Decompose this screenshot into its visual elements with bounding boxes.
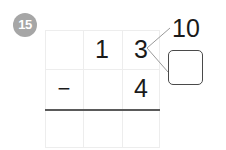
cell-subtrahend-ones[interactable]: 4 — [122, 69, 160, 108]
cell-operator-minus: − — [45, 69, 83, 108]
decomposition-ten-label: 10 — [172, 14, 200, 42]
cell-subtrahend-tens[interactable] — [83, 69, 121, 108]
worksheet-problem: 15 1 3 − 4 10 — [0, 0, 226, 150]
cell-minuend-tens[interactable]: 1 — [83, 30, 121, 69]
cell-minuend-hundreds[interactable] — [45, 30, 83, 69]
decomposition-answer-box[interactable] — [168, 50, 203, 85]
problem-number-badge: 15 — [13, 13, 37, 37]
cell-minuend-ones[interactable]: 3 — [122, 30, 160, 69]
cell-difference-ones[interactable] — [122, 110, 160, 149]
cell-difference-tens[interactable] — [83, 110, 121, 149]
vertical-subtraction-grid: 1 3 − 4 — [45, 30, 160, 148]
cell-difference-hundreds[interactable] — [45, 110, 83, 149]
